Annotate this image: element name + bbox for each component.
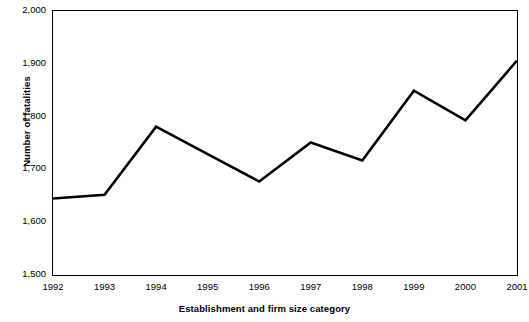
- y-tick-label: 2,000: [6, 4, 46, 15]
- data-line-svg: [53, 11, 517, 275]
- x-tick-label: 1993: [85, 281, 125, 292]
- fatalities-series-line: [53, 61, 517, 199]
- x-tick-label: 1992: [33, 281, 73, 292]
- x-tick-label: 1999: [394, 281, 434, 292]
- x-tick-label: 1997: [291, 281, 331, 292]
- x-tick-label: 1996: [239, 281, 279, 292]
- y-tick-label: 1,900: [6, 57, 46, 68]
- y-tick-label: 1,600: [6, 215, 46, 226]
- x-tick-label: 1995: [188, 281, 228, 292]
- y-tick-label: 1,700: [6, 162, 46, 173]
- y-tick-label: 1,800: [6, 110, 46, 121]
- x-tick-label: 1998: [342, 281, 382, 292]
- x-tick-label: 1994: [136, 281, 176, 292]
- y-tick-label: 1,500: [6, 268, 46, 279]
- x-tick-label: 2000: [445, 281, 485, 292]
- fatalities-line-chart: Number of fatalities 1,5001,6001,7001,80…: [0, 0, 529, 322]
- x-axis-title: Establishment and firm size category: [0, 303, 529, 314]
- plot-area: [52, 10, 518, 276]
- x-tick-label: 2001: [497, 281, 529, 292]
